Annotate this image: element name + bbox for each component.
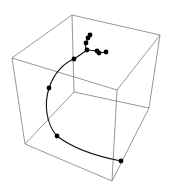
- box-edge: [72, 15, 74, 92]
- box-edge: [72, 15, 160, 35]
- plot-area: [0, 0, 171, 192]
- data-point: [55, 134, 60, 139]
- box-edge: [74, 92, 149, 108]
- box-edge: [149, 35, 160, 108]
- data-points: [47, 33, 124, 164]
- box-edge: [112, 108, 149, 181]
- data-point: [47, 86, 52, 91]
- box-edge: [112, 90, 117, 181]
- data-point: [97, 51, 102, 56]
- box-edge: [12, 15, 72, 58]
- box-edge: [12, 58, 117, 90]
- data-point: [104, 50, 109, 55]
- data-point: [119, 159, 124, 164]
- data-point: [88, 33, 93, 38]
- data-point: [72, 57, 77, 62]
- data-point: [85, 48, 90, 53]
- data-point: [84, 41, 89, 46]
- bounding-box: [12, 15, 160, 181]
- 3d-scatter-plot: [0, 0, 171, 192]
- box-edge: [117, 35, 160, 90]
- box-edge: [25, 144, 112, 181]
- box-edge: [12, 58, 25, 144]
- box-edge: [25, 92, 74, 144]
- trajectory-curve: [46, 35, 121, 161]
